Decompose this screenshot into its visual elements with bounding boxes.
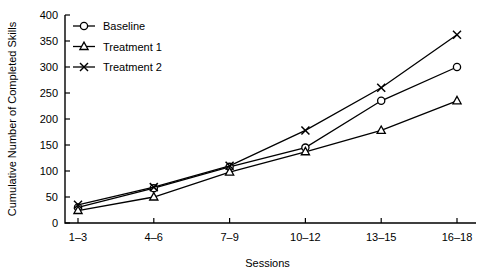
data-point-2-3 xyxy=(301,126,309,134)
y-tick-label: 250 xyxy=(40,87,58,99)
x-tick-label: 7–9 xyxy=(220,231,238,243)
series-layer xyxy=(74,31,461,214)
legend-item-baseline[interactable]: Baseline xyxy=(73,20,145,32)
y-axis-tick-labels: 050100150200250300350400 xyxy=(40,9,58,229)
x-tick-label: 13–15 xyxy=(366,231,397,243)
legend-item-treatment-2[interactable]: Treatment 2 xyxy=(73,61,162,73)
series-treatment-1 xyxy=(74,96,461,213)
x-tick-label: 4–6 xyxy=(145,231,163,243)
data-point-0-5 xyxy=(453,63,460,70)
series-treatment-2 xyxy=(74,31,461,209)
x-axis-tick-labels: 1–34–67–910–1213–1516–18 xyxy=(69,231,472,243)
y-tick-label: 350 xyxy=(40,35,58,47)
chart-figure: 050100150200250300350400 1–34–67–910–121… xyxy=(0,0,491,271)
y-axis-ticks xyxy=(65,15,70,223)
x-axis-ticks xyxy=(78,218,457,223)
y-tick-label: 50 xyxy=(46,191,58,203)
series-baseline xyxy=(74,63,460,211)
x-tick-label: 16–18 xyxy=(442,231,473,243)
legend-label: Baseline xyxy=(103,20,145,32)
data-point-2-4 xyxy=(377,84,385,92)
data-point-legend-1 xyxy=(80,42,88,49)
y-tick-label: 200 xyxy=(40,113,58,125)
y-tick-label: 400 xyxy=(40,9,58,21)
x-tick-label: 1–3 xyxy=(69,231,87,243)
data-point-1-5 xyxy=(453,96,461,103)
y-tick-label: 0 xyxy=(52,217,58,229)
legend-label: Treatment 2 xyxy=(103,61,162,73)
chart-legend: BaselineTreatment 1Treatment 2 xyxy=(73,20,162,73)
line-chart: 050100150200250300350400 1–34–67–910–121… xyxy=(0,0,491,271)
y-axis-title: Cumulative Number of Completed Skills xyxy=(6,21,18,216)
data-point-0-4 xyxy=(378,97,385,104)
y-tick-label: 100 xyxy=(40,165,58,177)
x-tick-label: 10–12 xyxy=(290,231,321,243)
y-tick-label: 300 xyxy=(40,61,58,73)
x-axis-title: Sessions xyxy=(245,257,290,269)
y-tick-label: 150 xyxy=(40,139,58,151)
legend-item-treatment-1[interactable]: Treatment 1 xyxy=(73,41,162,53)
data-point-2-5 xyxy=(453,31,461,39)
data-point-legend-0 xyxy=(80,22,87,29)
legend-label: Treatment 1 xyxy=(103,41,162,53)
